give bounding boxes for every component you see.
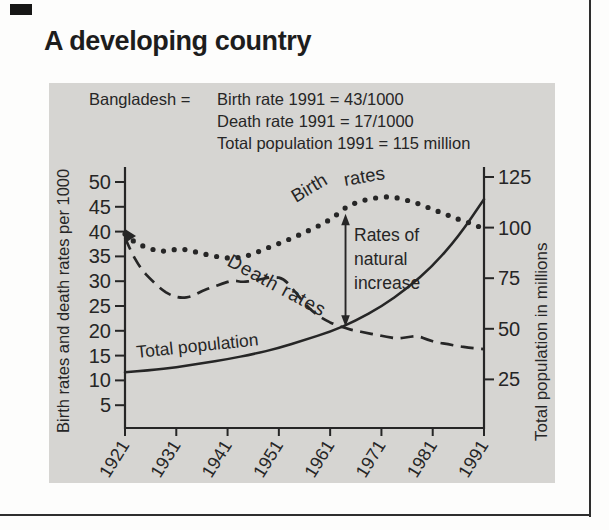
left-axis-tick-label: 50	[89, 171, 111, 193]
x-axis-tick-label: 1981	[403, 437, 441, 482]
birth-rates-dot	[352, 201, 357, 206]
birth-rates-dot	[276, 241, 281, 246]
birth-rates-dot	[334, 212, 339, 217]
birth-rates-dot	[316, 223, 321, 228]
birth-rates-dot	[193, 249, 198, 254]
birth-rates-dot	[436, 209, 441, 214]
left-axis-tick-label: 45	[89, 196, 111, 218]
birth-rates-dot	[373, 195, 378, 200]
left-axis-tick-label: 15	[89, 345, 111, 367]
birth-rates-dot	[384, 194, 389, 199]
x-axis-tick-label: 1961	[300, 437, 338, 482]
birth-rates-dot	[425, 205, 430, 210]
birth-rates-dot	[150, 247, 155, 252]
right-axis-title: Total population in millions	[532, 243, 551, 441]
right-axis-tick-label: 75	[498, 267, 520, 289]
page-border-right	[589, 0, 591, 517]
birth-rates-dot	[362, 198, 367, 203]
left-axis-title: Birth rates and death rates per 1000	[54, 169, 72, 433]
death-rates-label: Death rates	[224, 250, 330, 321]
x-axis-tick-label: 1991	[454, 437, 492, 482]
birth-rates-dot	[343, 206, 348, 211]
birth-rates-dot	[296, 233, 301, 238]
page-title: A developing country	[44, 26, 311, 57]
birth-rates-dot	[405, 198, 410, 203]
birth-rates-dot	[203, 252, 208, 257]
print-mark	[10, 4, 32, 15]
x-axis-tick-label: 1941	[198, 437, 236, 482]
birth-rates-dot	[395, 195, 400, 200]
birth-rates-dot	[415, 201, 420, 206]
x-axis-tick-label: 1931	[146, 437, 184, 482]
birth-rates-dot	[446, 213, 451, 218]
natural-increase-text-line: Rates of	[354, 225, 419, 245]
x-axis-tick-label: 1971	[352, 437, 390, 482]
birth-rates-label-word1: Birth	[287, 169, 330, 207]
left-axis-tick-label: 25	[89, 295, 111, 317]
page-border-bottom	[0, 514, 591, 516]
birth-rates-dot	[286, 237, 291, 242]
right-axis-tick-label: 25	[498, 368, 520, 390]
left-axis-tick-label: 35	[89, 245, 111, 267]
birth-rates-dot	[466, 220, 471, 225]
natural-increase-text-line: increase	[354, 273, 420, 293]
birth-rates-dot	[456, 217, 461, 222]
right-axis-tick-label: 100	[498, 217, 531, 239]
demographic-chart: 5045403530252015105125100755025192119311…	[49, 83, 555, 483]
left-axis-tick-label: 40	[89, 221, 111, 243]
left-axis-tick-label: 30	[89, 270, 111, 292]
chart-panel: Bangladesh = Birth rate 1991 = 43/1000 D…	[49, 83, 555, 483]
birth-rates-dot	[131, 238, 136, 243]
left-axis-tick-label: 10	[89, 369, 111, 391]
birth-rates-dot	[140, 243, 145, 248]
birth-rates-dot	[182, 247, 187, 252]
x-axis-tick-label: 1951	[249, 437, 287, 482]
left-axis-tick-label: 20	[89, 320, 111, 342]
left-axis-tick-label: 5	[100, 394, 111, 416]
natural-increase-text-line: natural	[354, 249, 408, 269]
birth-rates-dot	[161, 249, 166, 254]
birth-rates-dot	[266, 245, 271, 250]
birth-rates-dot	[325, 218, 330, 223]
right-axis-tick-label: 125	[498, 166, 531, 188]
birth-rates-label-word2: rates	[342, 162, 386, 190]
birth-rates-dot	[256, 249, 261, 254]
x-axis-tick-label: 1921	[95, 437, 133, 482]
birth-rates-dot	[306, 228, 311, 233]
page: A developing country Bangladesh = Birth …	[0, 0, 609, 530]
natural-increase-arrowhead-up	[341, 214, 350, 226]
birth-rates-dot	[476, 224, 481, 229]
birth-rates-dot	[172, 247, 177, 252]
right-axis-tick-label: 50	[498, 318, 520, 340]
birth-rates-dot	[214, 254, 219, 259]
